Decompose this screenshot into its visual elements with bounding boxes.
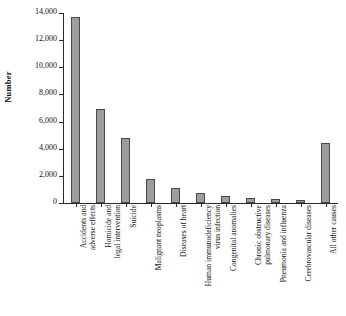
y-axis-tick-label: 6,000	[39, 116, 57, 125]
x-axis-category-label: Pneumonia and influenza	[280, 205, 289, 313]
y-axis-tick-mark	[59, 203, 64, 204]
bar	[221, 196, 230, 203]
x-axis-category-label: Accidents and adverse effects	[80, 205, 97, 313]
x-axis-category-label: All other causes	[330, 205, 339, 313]
bar	[96, 109, 105, 203]
bar	[171, 188, 180, 203]
y-axis-tick-label: 4,000	[39, 143, 57, 152]
y-axis-tick-label: 14,000	[35, 7, 57, 16]
x-axis-category-labels: Accidents and adverse effectsHomicide an…	[63, 205, 338, 316]
x-axis-category-label: Suicide	[130, 205, 139, 313]
y-axis-tick-label: 0	[53, 197, 57, 206]
y-axis-tick-label: 12,000	[35, 34, 57, 43]
bar-chart-figure: Number 02,0004,0006,0008,00010,00012,000…	[0, 0, 346, 316]
bar	[121, 138, 130, 203]
bar	[71, 17, 80, 203]
plot-area: 02,0004,0006,0008,00010,00012,00014,000	[63, 13, 338, 203]
x-axis-category-label: Homicide and legal intervention	[105, 205, 122, 313]
bar	[196, 193, 205, 203]
x-axis-category-label: Congenital anomalies	[230, 205, 239, 313]
y-axis-tick-label: 8,000	[39, 88, 57, 97]
x-axis-category-label: Diseases of heart	[180, 205, 189, 313]
bars-layer	[63, 13, 338, 203]
y-axis-tick-label: 2,000	[39, 170, 57, 179]
bar	[321, 143, 330, 203]
x-axis-category-label: Chronic obstructive pulmonary diseases	[255, 205, 272, 313]
y-axis-tick-label: 10,000	[35, 61, 57, 70]
x-axis-category-label: Cerebrovascular diseases	[305, 205, 314, 313]
x-axis-category-label: Human immunodeficiency virus infection	[205, 205, 222, 313]
x-axis-category-label: Malignant neoplasms	[155, 205, 164, 313]
bar	[146, 179, 155, 203]
y-axis-title: Number	[3, 57, 13, 117]
